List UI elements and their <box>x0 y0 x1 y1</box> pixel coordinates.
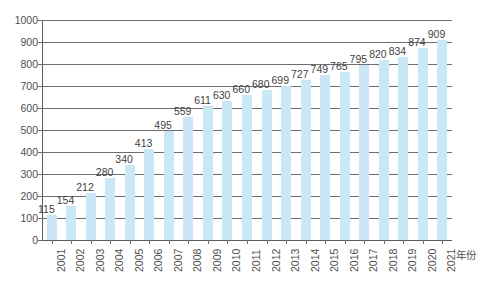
y-tick-label: 800 <box>0 59 38 69</box>
bar <box>222 101 232 240</box>
y-tick-mark <box>38 196 42 197</box>
x-tick-label: 2004 <box>114 249 125 272</box>
y-tick-label: 0 <box>0 235 38 245</box>
y-tick-label: 300 <box>0 169 38 179</box>
y-tick-label: 100 <box>0 213 38 223</box>
x-tick-mark <box>227 240 228 244</box>
x-tick-mark <box>188 240 189 244</box>
x-tick-mark <box>110 240 111 244</box>
y-tick-mark <box>38 108 42 109</box>
x-tick-label: 2009 <box>212 249 223 272</box>
bar <box>359 65 369 240</box>
y-tick-mark <box>38 20 42 21</box>
bar-value-label: 834 <box>382 46 406 56</box>
bar <box>105 178 115 240</box>
x-tick-label: 2008 <box>192 249 203 272</box>
bar <box>86 193 96 240</box>
y-tick-label: 700 <box>0 81 38 91</box>
x-tick-mark <box>71 240 72 244</box>
y-tick-mark <box>38 86 42 87</box>
y-tick-mark <box>38 218 42 219</box>
x-tick-label: 2017 <box>368 249 379 272</box>
x-tick-mark <box>91 240 92 244</box>
x-tick-mark <box>247 240 248 244</box>
bar-value-label: 280 <box>89 167 113 177</box>
x-tick-label: 2007 <box>173 249 184 272</box>
bar-value-label: 909 <box>421 29 445 39</box>
x-tick-label: 2014 <box>310 249 321 272</box>
bar <box>281 86 291 240</box>
x-tick-label: 2005 <box>134 249 145 272</box>
bar <box>398 57 408 240</box>
bar <box>301 80 311 240</box>
bar <box>203 106 213 240</box>
bar <box>437 40 447 240</box>
x-axis-title: 年份 <box>456 250 476 261</box>
bar <box>262 90 272 240</box>
y-tick-mark <box>38 64 42 65</box>
bar <box>379 60 389 240</box>
y-tick-label: 900 <box>0 37 38 47</box>
x-tick-label: 2010 <box>231 249 242 272</box>
x-tick-label: 2006 <box>153 249 164 272</box>
bar-value-label: 559 <box>167 106 191 116</box>
bar-value-label: 340 <box>109 154 133 164</box>
y-tick-mark <box>38 130 42 131</box>
x-tick-mark <box>364 240 365 244</box>
bar <box>183 117 193 240</box>
x-tick-label: 2011 <box>251 249 262 272</box>
plot-area: 1151542122803404134955596116306606806997… <box>42 20 452 240</box>
x-tick-label: 2003 <box>95 249 106 272</box>
bar <box>125 165 135 240</box>
x-tick-mark <box>423 240 424 244</box>
x-tick-label: 2001 <box>56 249 67 272</box>
bar <box>320 75 330 240</box>
bar-value-label: 154 <box>50 195 74 205</box>
bar-value-label: 212 <box>70 182 94 192</box>
x-tick-mark <box>149 240 150 244</box>
x-tick-label: 2016 <box>349 249 360 272</box>
y-tick-label: 400 <box>0 147 38 157</box>
x-tick-label: 2013 <box>290 249 301 272</box>
y-tick-mark <box>38 152 42 153</box>
x-tick-label: 2019 <box>407 249 418 272</box>
y-tick-mark <box>38 240 42 241</box>
bar-chart: 01002003004005006007008009001000 1151542… <box>0 0 492 286</box>
bar-value-label: 495 <box>148 120 172 130</box>
bar <box>66 206 76 240</box>
x-tick-mark <box>208 240 209 244</box>
y-tick-label: 1000 <box>0 15 38 25</box>
bar <box>418 48 428 240</box>
x-tick-mark <box>345 240 346 244</box>
y-tick-label: 200 <box>0 191 38 201</box>
x-tick-label: 2020 <box>427 249 438 272</box>
bar <box>164 131 174 240</box>
x-tick-mark <box>52 240 53 244</box>
gridline <box>42 42 452 43</box>
y-tick-mark <box>38 174 42 175</box>
y-tick-label: 600 <box>0 103 38 113</box>
y-tick-label: 500 <box>0 125 38 135</box>
x-tick-mark <box>306 240 307 244</box>
x-tick-label: 2012 <box>271 249 282 272</box>
x-tick-mark <box>325 240 326 244</box>
x-tick-label: 2015 <box>329 249 340 272</box>
bar <box>340 72 350 240</box>
gridline <box>42 64 452 65</box>
x-tick-mark <box>130 240 131 244</box>
x-tick-label: 2002 <box>75 249 86 272</box>
x-tick-mark <box>267 240 268 244</box>
gridline <box>42 20 452 21</box>
bar <box>47 215 57 240</box>
x-tick-label: 2018 <box>388 249 399 272</box>
bar-value-label: 115 <box>31 204 55 214</box>
x-tick-mark <box>384 240 385 244</box>
x-tick-mark <box>169 240 170 244</box>
bar <box>144 149 154 240</box>
x-tick-mark <box>286 240 287 244</box>
x-tick-mark <box>442 240 443 244</box>
bar <box>242 95 252 240</box>
x-tick-mark <box>403 240 404 244</box>
bar-value-label: 413 <box>128 138 152 148</box>
y-tick-mark <box>38 42 42 43</box>
